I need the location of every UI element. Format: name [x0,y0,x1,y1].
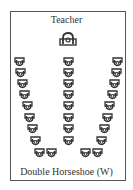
student-desk-icon [112,57,123,67]
student-desk-icon [104,101,115,111]
student-desk-icon [63,101,74,111]
student-desk-icon [107,90,118,100]
teacher-desk-icon [59,32,77,46]
student-desk-icon [99,124,110,134]
layout-caption: Double Horseshoe (W) [0,166,133,177]
student-desk-icon [63,124,74,134]
student-desk-icon [63,79,74,89]
student-desk-icon [63,57,74,67]
teacher-label: Teacher [0,14,133,25]
student-desk-icon [17,79,28,89]
student-desk-icon [63,113,74,123]
student-desk-icon [63,68,74,78]
student-desk-icon [27,124,38,134]
student-desk-icon [102,113,113,123]
student-desk-icon [15,68,26,78]
student-desk-icon [96,136,107,146]
student-desk-icon [92,148,103,158]
student-desk-icon [80,148,91,158]
student-desk-icon [14,57,25,67]
student-desk-icon [24,113,35,123]
student-desk-icon [19,90,30,100]
student-desk-icon [46,148,57,158]
student-desk-icon [22,101,33,111]
student-desk-icon [34,148,45,158]
student-desk-icon [109,79,120,89]
student-desk-icon [63,90,74,100]
student-desk-icon [111,68,122,78]
student-desk-icon [63,136,74,146]
student-desk-icon [30,136,41,146]
